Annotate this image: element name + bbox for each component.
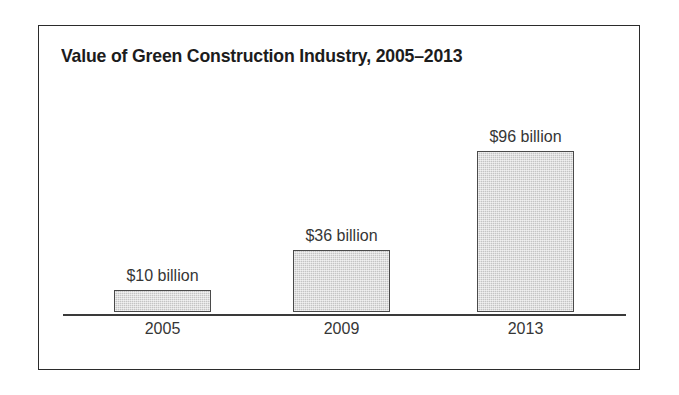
x-tick-label-2013: 2013	[508, 320, 544, 338]
bar-group-2009: $36 billion 2009	[293, 250, 390, 312]
bar-2013	[477, 151, 574, 312]
bar-value-label: $36 billion	[305, 227, 377, 245]
bar-group-2005: $10 billion 2005	[114, 290, 211, 312]
x-axis-baseline	[63, 314, 626, 316]
bar-2005	[114, 290, 211, 312]
bar-group-2013: $96 billion 2013	[477, 151, 574, 312]
plot-area: $10 billion 2005 $36 billion 2009 $96 bi…	[39, 26, 639, 369]
bar-value-label: $96 billion	[489, 128, 561, 146]
bar-value-label: $10 billion	[126, 267, 198, 285]
x-tick-label-2009: 2009	[324, 320, 360, 338]
chart-figure: Value of Green Construction Industry, 20…	[38, 25, 640, 370]
x-tick-label-2005: 2005	[145, 320, 181, 338]
bar-2009	[293, 250, 390, 312]
